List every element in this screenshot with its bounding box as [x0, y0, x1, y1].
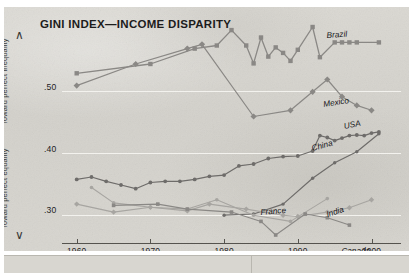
- data-point: [348, 134, 352, 138]
- series-line: [224, 134, 379, 215]
- data-point: [274, 233, 278, 237]
- data-point: [244, 43, 248, 47]
- data-point: [134, 187, 138, 191]
- x-axis-line: [62, 243, 401, 244]
- series-china: [222, 132, 380, 217]
- data-point: [119, 183, 123, 187]
- data-point: [222, 173, 226, 177]
- data-point: [266, 157, 270, 161]
- data-point: [368, 107, 374, 113]
- data-point: [369, 197, 374, 202]
- data-point: [112, 204, 116, 208]
- data-point: [251, 61, 255, 65]
- series-usa: [75, 130, 381, 191]
- data-point: [259, 220, 263, 224]
- data-point: [310, 25, 314, 29]
- data-point: [74, 82, 80, 88]
- data-point: [281, 155, 285, 159]
- data-point: [340, 136, 344, 140]
- data-point: [215, 43, 219, 47]
- data-point: [362, 134, 366, 138]
- x-tick-label: 1970: [141, 246, 160, 251]
- data-point: [370, 131, 374, 135]
- data-point: [318, 134, 322, 138]
- data-point: [74, 201, 79, 206]
- data-point: [163, 179, 167, 183]
- chart-panel: GINI INDEX—INCOME DISPARITY ∧ Toward per…: [4, 7, 409, 251]
- x-tick-label: 1990: [288, 246, 307, 251]
- data-point: [289, 220, 293, 224]
- data-point: [237, 164, 241, 168]
- data-point: [186, 207, 190, 211]
- x-tick-mark: [372, 239, 373, 244]
- x-tick-mark: [77, 239, 78, 244]
- data-point: [259, 35, 263, 39]
- data-point: [326, 197, 330, 201]
- series-label-canada: Canada: [341, 247, 370, 251]
- data-point: [148, 205, 153, 210]
- data-point: [193, 178, 197, 182]
- data-point: [75, 71, 79, 75]
- data-point: [178, 179, 182, 183]
- x-tick-mark: [298, 239, 299, 244]
- data-point: [215, 198, 219, 202]
- data-point: [156, 202, 160, 206]
- data-point: [355, 150, 358, 153]
- series-line: [114, 204, 350, 235]
- data-point: [303, 212, 307, 216]
- data-point: [377, 132, 380, 135]
- data-point: [111, 209, 116, 214]
- data-point: [354, 102, 360, 108]
- x-tick-label: 1980: [214, 246, 233, 251]
- data-point: [252, 162, 256, 166]
- data-point: [266, 54, 270, 58]
- data-point: [222, 214, 225, 217]
- data-point: [208, 174, 212, 178]
- data-point: [148, 62, 152, 66]
- data-point: [90, 186, 94, 190]
- data-point: [296, 154, 300, 158]
- data-point: [347, 205, 352, 210]
- data-point: [281, 51, 285, 55]
- x-tick-mark: [150, 239, 151, 244]
- data-point: [274, 45, 278, 49]
- data-point: [311, 177, 314, 180]
- data-point: [318, 55, 322, 59]
- data-point: [252, 213, 256, 217]
- data-point: [333, 161, 336, 164]
- data-point: [347, 40, 351, 44]
- data-point: [355, 133, 359, 137]
- data-point: [377, 40, 381, 44]
- data-point: [90, 175, 94, 179]
- x-tick-label: 1960: [67, 246, 86, 251]
- data-point: [355, 40, 359, 44]
- data-point: [75, 178, 79, 182]
- data-point: [333, 40, 337, 44]
- data-point: [288, 59, 292, 63]
- data-point: [229, 28, 233, 32]
- data-point: [149, 181, 153, 185]
- x-tick-mark: [224, 239, 225, 244]
- page-bottom-rule: [4, 255, 409, 273]
- data-point: [230, 210, 234, 214]
- plot-area: GINI INDEX—INCOME DISPARITY ∧ Toward per…: [4, 7, 409, 251]
- series-label-france: France: [261, 205, 287, 216]
- data-point: [348, 223, 352, 227]
- bottom-divider: [251, 256, 252, 273]
- data-point: [340, 40, 344, 44]
- data-point: [333, 139, 337, 143]
- data-point: [104, 179, 108, 183]
- data-point: [296, 48, 300, 52]
